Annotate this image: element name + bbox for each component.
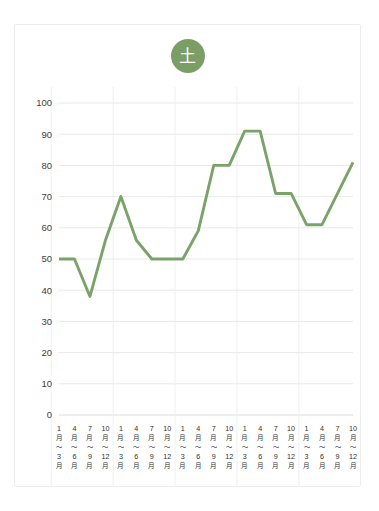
year-label: 2029年 — [312, 485, 347, 486]
year-label: 2026年 — [126, 485, 161, 486]
y-axis-tick-label: 30 — [41, 316, 52, 327]
x-axis-tick-label: 月 — [210, 434, 217, 442]
x-axis-tick-label: 月 — [102, 462, 109, 470]
x-axis-tick-label: 12 — [101, 452, 109, 461]
x-axis-tick-label: 月 — [195, 462, 202, 470]
x-axis-tick-label: 月 — [117, 462, 124, 470]
x-axis-tick-label: 月 — [226, 434, 233, 442]
x-axis-tick-label: 月 — [288, 462, 295, 470]
x-axis-tick-label: 12 — [225, 452, 233, 461]
x-axis-tick-label: 1 — [181, 424, 185, 433]
x-axis-tick-label: 月 — [210, 462, 217, 470]
x-axis-tick-label: 3 — [243, 452, 247, 461]
x-axis-tick-label: 6 — [72, 452, 76, 461]
x-axis-tick-label: 6 — [320, 452, 324, 461]
x-axis-tick-label: 7 — [212, 424, 216, 433]
x-axis-tick-label: 4 — [258, 424, 262, 433]
x-axis-tick-label: 月 — [179, 434, 186, 442]
x-axis-tick-label: 〜 — [164, 443, 170, 450]
x-axis-tick-label: 〜 — [242, 443, 248, 450]
x-axis-tick-label: 〜 — [288, 443, 294, 450]
x-axis-tick-label: 月 — [241, 462, 248, 470]
x-axis-tick-label: 10 — [287, 424, 295, 433]
year-label: 2025年 — [64, 485, 99, 486]
x-axis-tick-label: 月 — [350, 434, 357, 442]
x-axis-tick-label: 月 — [71, 434, 78, 442]
x-axis-tick-label: 10 — [349, 424, 357, 433]
x-axis-tick-label: 〜 — [335, 443, 341, 450]
x-axis-tick-label: 10 — [225, 424, 233, 433]
x-axis-tick-label: 9 — [150, 452, 154, 461]
x-axis-tick-label: 1 — [243, 424, 247, 433]
gridlines — [59, 103, 353, 415]
x-axis-tick-label: 月 — [86, 462, 93, 470]
x-axis-tick-label: 月 — [179, 462, 186, 470]
x-axis-tick-label: 〜 — [257, 443, 263, 450]
x-axis-tick-label: 月 — [319, 462, 326, 470]
x-axis-tick-label: 月 — [148, 434, 155, 442]
x-axis-tick-label: 月 — [86, 434, 93, 442]
y-axis-tick-label: 40 — [41, 285, 52, 296]
x-axis-tick-label: 月 — [257, 434, 264, 442]
x-axis-tick-label: 10 — [101, 424, 109, 433]
y-axis-tick-label: 100 — [36, 97, 52, 108]
x-axis-tick-label: 月 — [71, 462, 78, 470]
year-separators — [51, 87, 360, 486]
x-axis-tick-label: 月 — [272, 462, 279, 470]
x-axis-tick-label: 月 — [319, 434, 326, 442]
x-axis-tick-label: 〜 — [71, 443, 77, 450]
chart-card: 土 0102030405060708090100 1月〜3月4月〜6月7月〜9月… — [14, 24, 361, 487]
x-axis-tick-label: 月 — [303, 434, 310, 442]
x-axis-tick-label: 月 — [133, 434, 140, 442]
x-axis-tick-label: 月 — [334, 434, 341, 442]
x-axis-tick-label: 〜 — [149, 443, 155, 450]
x-axis-tick-label: 〜 — [304, 443, 310, 450]
x-axis-tick-label: 〜 — [133, 443, 139, 450]
x-axis-tick-label: 9 — [336, 452, 340, 461]
x-axis-tick-label: 3 — [305, 452, 309, 461]
x-axis-tick-label: 4 — [196, 424, 200, 433]
x-axis-tick-label: 〜 — [273, 443, 279, 450]
x-axis-tick-label: 月 — [56, 434, 63, 442]
x-axis-tick-label: 12 — [287, 452, 295, 461]
weekday-badge-label: 土 — [179, 48, 196, 65]
x-axis-tick-label: 〜 — [180, 443, 186, 450]
x-axis-tick-label: 〜 — [118, 443, 124, 450]
y-axis-tick-label: 90 — [41, 129, 52, 140]
x-axis-tick-label: 7 — [274, 424, 278, 433]
data-line-series — [59, 131, 353, 296]
x-axis-tick-label: 月 — [117, 434, 124, 442]
x-axis-tick-label: 9 — [212, 452, 216, 461]
y-axis-tick-label: 70 — [41, 191, 52, 202]
y-axis-tick-label: 0 — [47, 409, 52, 420]
x-axis-tick-label: 月 — [102, 434, 109, 442]
x-axis-tick-label: 月 — [164, 462, 171, 470]
x-axis-tick-label: 〜 — [56, 443, 62, 450]
x-axis-tick-label: 〜 — [350, 443, 356, 450]
x-axis-tick-label: 3 — [181, 452, 185, 461]
chart-plot-area: 0102030405060708090100 1月〜3月4月〜6月7月〜9月10… — [15, 81, 360, 486]
y-axis-tick-label: 20 — [41, 347, 52, 358]
line-chart: 0102030405060708090100 1月〜3月4月〜6月7月〜9月10… — [15, 81, 360, 486]
x-axis-tick-label: 12 — [349, 452, 357, 461]
x-axis-tick-label: 〜 — [102, 443, 108, 450]
x-axis-tick-label: 9 — [88, 452, 92, 461]
x-axis-tick-label: 〜 — [211, 443, 217, 450]
year-label: 2027年 — [188, 485, 223, 486]
x-axis-tick-label: 6 — [196, 452, 200, 461]
x-axis-tick-label: 月 — [148, 462, 155, 470]
weekday-badge: 土 — [171, 39, 205, 73]
x-axis-tick-label: 1 — [119, 424, 123, 433]
x-axis-tick-label: 〜 — [319, 443, 325, 450]
x-axis-tick-label: 月 — [257, 462, 264, 470]
y-axis-tick-label: 60 — [41, 222, 52, 233]
x-axis-tick-label: 3 — [119, 452, 123, 461]
x-axis-tick-label: 月 — [303, 462, 310, 470]
x-axis-tick-label: 月 — [272, 434, 279, 442]
x-axis-labels: 1月〜3月4月〜6月7月〜9月10月〜12月1月〜3月4月〜6月7月〜9月10月… — [56, 424, 358, 470]
x-axis-tick-label: 〜 — [87, 443, 93, 450]
y-axis-tick-label: 10 — [41, 378, 52, 389]
x-axis-tick-label: 1 — [305, 424, 309, 433]
x-axis-tick-label: 月 — [334, 462, 341, 470]
x-axis-tick-label: 4 — [134, 424, 138, 433]
